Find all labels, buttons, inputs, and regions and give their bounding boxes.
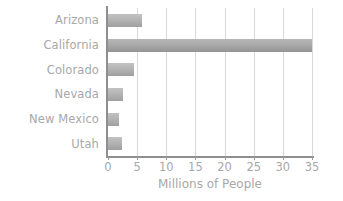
bar-colorado xyxy=(108,63,134,76)
bar-row xyxy=(108,8,312,33)
bar-chart: Arizona California Colorado Nevada New M… xyxy=(0,0,343,201)
bar-row xyxy=(108,131,312,156)
bar-series xyxy=(108,8,312,156)
bar-row xyxy=(108,33,312,58)
x-tick-label: 25 xyxy=(246,160,261,174)
x-tick-mark xyxy=(225,156,226,160)
x-tick-label: 20 xyxy=(217,160,232,174)
x-tick-label: 0 xyxy=(104,160,111,174)
gridline xyxy=(312,8,313,156)
x-tick-mark xyxy=(312,156,313,160)
bar-california xyxy=(108,39,312,52)
x-tick-label: 15 xyxy=(188,160,203,174)
category-label-nevada: Nevada xyxy=(0,82,104,107)
bar-arizona xyxy=(108,14,142,27)
x-tick-mark xyxy=(283,156,284,160)
category-axis-labels: Arizona California Colorado Nevada New M… xyxy=(0,8,104,156)
category-label-california: California xyxy=(0,33,104,58)
category-label-new-mexico: New Mexico xyxy=(0,107,104,132)
bar-nevada xyxy=(108,88,123,101)
x-axis-tick-labels: 05101520253035 xyxy=(108,160,312,176)
x-tick-label: 35 xyxy=(305,160,320,174)
bar-new-mexico xyxy=(108,113,119,126)
bar-row xyxy=(108,107,312,132)
bar-row xyxy=(108,82,312,107)
category-label-colorado: Colorado xyxy=(0,57,104,82)
bar-row xyxy=(108,57,312,82)
x-tick-label: 5 xyxy=(133,160,140,174)
x-tick-mark xyxy=(108,156,109,160)
x-axis-title: Millions of People xyxy=(108,177,312,191)
plot-area xyxy=(108,8,312,156)
x-tick-mark xyxy=(166,156,167,160)
bar-utah xyxy=(108,137,122,150)
x-tick-label: 10 xyxy=(159,160,174,174)
x-tick-mark xyxy=(195,156,196,160)
category-label-arizona: Arizona xyxy=(0,8,104,33)
category-label-utah: Utah xyxy=(0,131,104,156)
x-tick-mark xyxy=(254,156,255,160)
x-tick-mark xyxy=(137,156,138,160)
x-tick-label: 30 xyxy=(276,160,291,174)
